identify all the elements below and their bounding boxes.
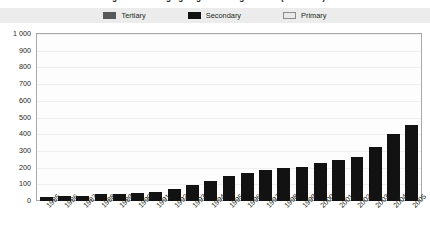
- y-axis-tick-label: 300: [19, 146, 31, 153]
- x-axis-slot: 2000: [311, 202, 329, 246]
- x-axis-slot: 1996: [238, 202, 256, 246]
- bar-slot: [403, 34, 421, 201]
- bar-slot: [238, 34, 256, 201]
- bar-slot: [183, 34, 201, 201]
- x-axis-slot: 1993: [183, 202, 201, 246]
- x-axis-slot: 2004: [384, 202, 402, 246]
- bar-slot: [110, 34, 128, 201]
- y-axis-tick-label: 700: [19, 80, 31, 87]
- legend-item-label: Primary: [301, 12, 326, 19]
- bar[interactable]: [351, 157, 364, 201]
- y-axis-tick-label: 500: [19, 113, 31, 120]
- y-axis: 1 0009008007006005004003002001000: [0, 33, 36, 201]
- bar-slot: [366, 34, 384, 201]
- x-axis-slot: 2002: [348, 202, 366, 246]
- bar-series-secondary: [37, 34, 421, 201]
- x-axis-slot: 2001: [330, 202, 348, 246]
- bar-slot: [92, 34, 110, 201]
- bar-slot: [202, 34, 220, 201]
- chart-root: Figure 1.1 Changing origins of UK gradua…: [0, 0, 430, 246]
- y-axis-tick-label: 100: [19, 180, 31, 187]
- y-axis-tick-label: 400: [19, 130, 31, 137]
- bar-slot: [330, 34, 348, 201]
- bar[interactable]: [405, 125, 418, 201]
- bar-slot: [311, 34, 329, 201]
- chart-title: Figure 1.1 Changing origins of UK gradua…: [0, 0, 430, 3]
- x-axis-slot: 2005: [403, 202, 421, 246]
- legend-swatch-primary: [283, 12, 296, 19]
- chart-legend: TertiarySecondaryPrimary: [0, 8, 430, 23]
- bar-slot: [275, 34, 293, 201]
- y-axis-tick-label: 800: [19, 63, 31, 70]
- bar-slot: [256, 34, 274, 201]
- legend-item-tertiary[interactable]: Tertiary: [103, 12, 145, 19]
- y-axis-tick-label: 200: [19, 163, 31, 170]
- x-axis-slot: 1987: [74, 202, 92, 246]
- x-axis-slot: 1989: [110, 202, 128, 246]
- legend-item-label: Secondary: [206, 12, 241, 19]
- y-axis-tick-label: 900: [19, 46, 31, 53]
- legend-swatch-secondary: [188, 12, 201, 19]
- x-axis-slot: 1998: [275, 202, 293, 246]
- x-axis-slot: 1992: [165, 202, 183, 246]
- bar-slot: [147, 34, 165, 201]
- bar-slot: [128, 34, 146, 201]
- x-axis-slot: 1999: [293, 202, 311, 246]
- bar-slot: [293, 34, 311, 201]
- legend-item-primary[interactable]: Primary: [283, 12, 326, 19]
- x-axis-slot: 1985: [37, 202, 55, 246]
- x-axis: 1985198619871988198919901991199219931994…: [37, 202, 421, 246]
- x-axis-slot: 1997: [256, 202, 274, 246]
- y-axis-tick-label: 1 000: [13, 30, 31, 37]
- x-axis-slot: 1990: [128, 202, 146, 246]
- bar-slot: [74, 34, 92, 201]
- legend-item-label: Tertiary: [121, 12, 145, 19]
- bar-slot: [220, 34, 238, 201]
- legend-item-secondary[interactable]: Secondary: [188, 12, 241, 19]
- bar[interactable]: [369, 147, 382, 201]
- bar-slot: [37, 34, 55, 201]
- x-axis-slot: 1991: [147, 202, 165, 246]
- x-axis-slot: 1994: [202, 202, 220, 246]
- x-axis-slot: 1986: [55, 202, 73, 246]
- x-axis-slot: 2003: [366, 202, 384, 246]
- x-axis-slot: 1995: [220, 202, 238, 246]
- legend-swatch-tertiary: [103, 12, 116, 19]
- bar[interactable]: [387, 134, 400, 201]
- bar[interactable]: [332, 160, 345, 201]
- y-axis-tick-label: 600: [19, 96, 31, 103]
- x-axis-slot: 1988: [92, 202, 110, 246]
- bar-slot: [55, 34, 73, 201]
- bar-slot: [384, 34, 402, 201]
- bar-slot: [348, 34, 366, 201]
- y-axis-tick-label: 0: [27, 197, 31, 204]
- bar-slot: [165, 34, 183, 201]
